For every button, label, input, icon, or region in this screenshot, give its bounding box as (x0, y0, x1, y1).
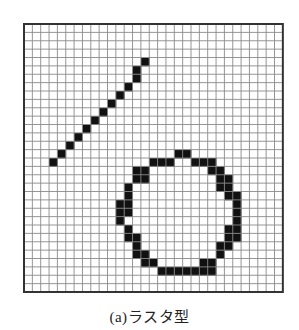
circle-pixel (216, 166, 225, 175)
circle-pixel (116, 200, 125, 209)
diagonal-line-pixel (116, 91, 125, 100)
circle-pixel (233, 208, 242, 217)
circle-pixel (224, 225, 233, 234)
circle-pixel (183, 150, 192, 159)
circle-pixel (116, 217, 125, 226)
diagonal-line-pixel (82, 125, 91, 134)
diagonal-line-pixel (49, 158, 58, 167)
circle-pixel (216, 250, 225, 259)
circle-pixel (174, 267, 183, 276)
circle-pixel (149, 158, 158, 167)
circle-pixel (174, 150, 183, 159)
diagonal-line-pixel (108, 99, 117, 108)
circle-pixel (199, 267, 208, 276)
diagonal-line-pixel (74, 133, 83, 142)
circle-pixel (141, 250, 150, 259)
circle-pixel (133, 166, 142, 175)
circle-pixel (199, 259, 208, 268)
diagonal-line-pixel (57, 150, 66, 159)
circle-pixel (208, 259, 217, 268)
diagonal-line-pixel (141, 58, 150, 67)
circle-pixel (199, 158, 208, 167)
circle-pixel (233, 200, 242, 209)
circle-pixel (141, 166, 150, 175)
circle-pixel (141, 175, 150, 184)
circle-pixel (224, 242, 233, 251)
diagonal-line-pixel (66, 141, 75, 150)
circle-pixel (149, 259, 158, 268)
figure-caption: (a)ラスタ型 (0, 305, 299, 326)
circle-pixel (224, 175, 233, 184)
circle-pixel (124, 225, 133, 234)
circle-pixel (208, 267, 217, 276)
circle-pixel (191, 158, 200, 167)
circle-pixel (124, 192, 133, 201)
grid-lines (24, 24, 283, 292)
circle-pixel (166, 158, 175, 167)
diagonal-line-pixel (99, 108, 108, 117)
diagonal-line-pixel (124, 83, 133, 92)
circle-pixel (124, 233, 133, 242)
circle-pixel (133, 250, 142, 259)
circle-pixel (224, 233, 233, 242)
circle-pixel (133, 175, 142, 184)
circle-pixel (208, 166, 217, 175)
raster-figure: (a)ラスタ型 (0, 0, 299, 330)
circle-pixel (166, 267, 175, 276)
circle-pixel (224, 192, 233, 201)
circle-pixel (191, 267, 200, 276)
circle-pixel (216, 242, 225, 251)
circle-pixel (233, 233, 242, 242)
diagonal-line-pixel (133, 74, 142, 83)
circle-pixel (233, 192, 242, 201)
circle-pixel (233, 225, 242, 234)
circle-pixel (158, 158, 167, 167)
circle-pixel (116, 208, 125, 217)
circle-pixel (133, 242, 142, 251)
circle-pixel (124, 200, 133, 209)
raster-grid (23, 23, 285, 294)
diagonal-line-pixel (91, 116, 100, 125)
circle-pixel (216, 175, 225, 184)
circle-pixel (158, 267, 167, 276)
circle-pixel (183, 267, 192, 276)
circle-pixel (124, 208, 133, 217)
circle-pixel (141, 259, 150, 268)
circle-pixel (133, 233, 142, 242)
circle-pixel (224, 183, 233, 192)
circle-pixel (124, 183, 133, 192)
circle-pixel (208, 158, 217, 167)
circle-pixel (233, 217, 242, 226)
circle-pixel (216, 183, 225, 192)
diagonal-line-pixel (133, 66, 142, 75)
